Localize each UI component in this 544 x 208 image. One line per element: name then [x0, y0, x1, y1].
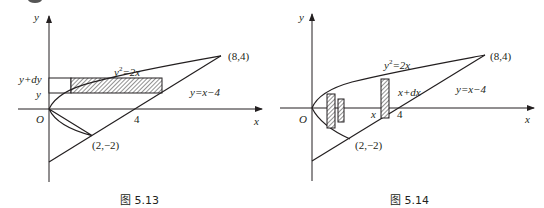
tick-label-4: 4	[397, 108, 403, 120]
y-axis-label: y	[299, 11, 304, 23]
tick-label-4: 4	[134, 113, 140, 125]
x-axis-label: x	[525, 113, 530, 125]
strip-left-tall	[327, 94, 335, 128]
strip-left-small	[338, 99, 344, 122]
point-label-2-neg2: (2,−2)	[355, 139, 382, 151]
strip-hatched	[71, 78, 162, 93]
curve-label: y2=2x	[384, 56, 410, 71]
origin-label: O	[36, 113, 44, 125]
y-axis-label: y	[34, 11, 39, 23]
strip-label-x-plus-dx: x+dx	[398, 86, 421, 98]
figure-caption: 图 5.13	[120, 191, 159, 207]
point-label-8-4: (8,4)	[490, 50, 511, 62]
strip-label-upper: y+dy	[19, 73, 42, 85]
origin-label: O	[299, 113, 307, 125]
point-label-2-neg2: (2,−2)	[92, 139, 119, 151]
strip-x-dx	[381, 79, 389, 118]
line-label: y=x−4	[456, 83, 486, 95]
figure-caption: 图 5.14	[390, 191, 429, 207]
figure-5-14-plot	[272, 0, 544, 208]
curve-label-rest: =2x	[122, 66, 140, 78]
point-label-8-4: (8,4)	[228, 50, 249, 62]
figure-5-14: y x O 4 (8,4) (2,−2) y2=2x y=x−4 x x+dx …	[272, 0, 544, 208]
strip-label-lower: y	[36, 88, 41, 100]
strip-label-x: x	[371, 108, 376, 120]
figure-5-13-plot	[0, 0, 272, 208]
figure-5-13: y x O 4 (8,4) (2,−2) y2=2x y=x−4 y+dy y …	[0, 0, 272, 208]
curve-label-rest: =2x	[392, 59, 410, 71]
curve-label: y2=2x	[114, 63, 140, 78]
x-axis-label: x	[254, 115, 259, 127]
line-label: y=x−4	[190, 86, 220, 98]
